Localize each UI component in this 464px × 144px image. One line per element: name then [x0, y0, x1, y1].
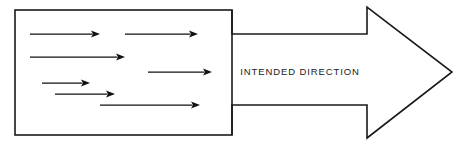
vector-arrow	[55, 91, 115, 98]
vector-arrow	[42, 80, 90, 87]
vector-arrow	[148, 69, 212, 76]
vector-arrows-group	[30, 31, 212, 109]
diagram-canvas: INTENDED DIRECTION	[0, 0, 464, 144]
vector-arrow	[125, 31, 198, 38]
vector-arrow	[100, 102, 200, 109]
vector-arrow	[30, 31, 100, 38]
intended-direction-diagram: INTENDED DIRECTION	[0, 0, 464, 144]
vector-arrow	[30, 54, 125, 61]
big-arrow-label: INTENDED DIRECTION	[240, 66, 360, 77]
